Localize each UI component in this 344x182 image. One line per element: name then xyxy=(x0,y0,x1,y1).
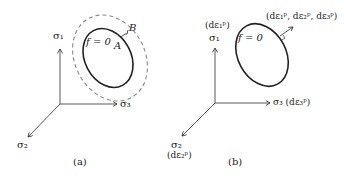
yield-surface-b xyxy=(225,15,298,96)
axis-label-sigma1-b: σ₁ xyxy=(209,33,220,43)
axis-label-sigma3-b: σ₃ (dε₃ᵖ) xyxy=(273,98,310,107)
axis-label-strain1-b: (dε₁ᵖ) xyxy=(205,21,230,30)
axis-label-sigma1-a: σ₁ xyxy=(53,31,64,41)
panel-b-axes xyxy=(182,48,270,136)
loading-surface-dashed xyxy=(58,2,162,114)
surface-label-a: f = 0 xyxy=(86,37,111,47)
axis-label-sigma3-a: σ₃ xyxy=(120,99,131,109)
point-B-label: B xyxy=(129,23,136,33)
caption-b: (b) xyxy=(228,156,242,167)
normal-vector-arrow xyxy=(280,27,293,36)
panel-a-axes xyxy=(28,49,117,137)
caption-a: (a) xyxy=(73,156,87,167)
axis-label-strain2-b: (dε₂ᵖ) xyxy=(167,151,192,160)
sigma2-axis-b xyxy=(182,103,215,136)
axis-label-sigma2-a: σ₂ xyxy=(17,140,28,150)
point-A-label: A xyxy=(114,41,121,51)
surface-label-b: f = 0 xyxy=(238,33,263,43)
right-angle-mark xyxy=(282,35,285,40)
AB-segment xyxy=(121,30,128,37)
axis-label-sigma2-b: σ₂ xyxy=(171,140,182,150)
normal-vector-label: (dε₁ᵖ, dε₂ᵖ, dε₃ᵖ) xyxy=(266,12,337,21)
sigma2-axis xyxy=(28,104,60,137)
